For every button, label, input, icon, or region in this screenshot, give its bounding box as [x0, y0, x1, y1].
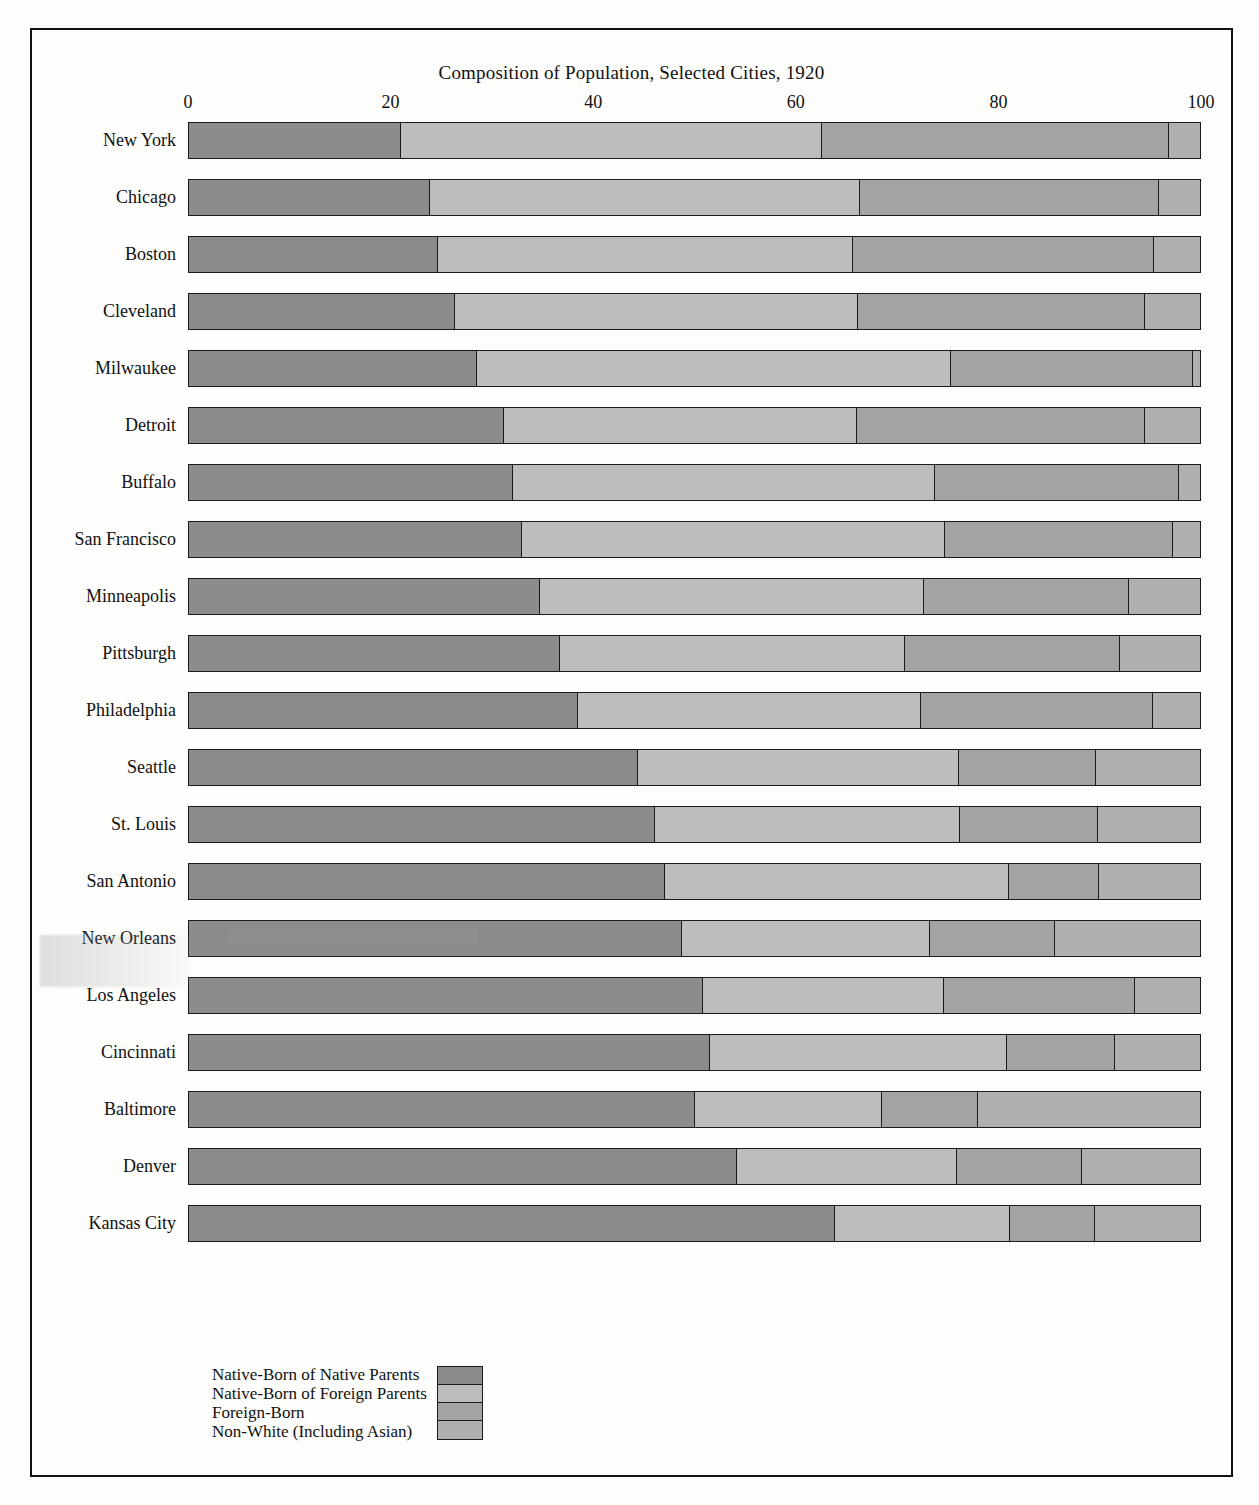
bar-row: San Antonio	[188, 859, 1201, 903]
bar-segment	[703, 978, 945, 1013]
x-axis-tick: 80	[989, 92, 1007, 113]
chart-legend: Native-Born of Native ParentsNative-Born…	[212, 1365, 483, 1441]
bar-segment	[1082, 1149, 1200, 1184]
bar-row-label: Cincinnati	[101, 1042, 176, 1063]
stacked-bar	[188, 236, 1201, 273]
bar-segment	[189, 807, 655, 842]
bar-row-label: San Francisco	[75, 529, 176, 550]
bar-segment	[1159, 180, 1200, 215]
bar-segment	[504, 408, 857, 443]
bar-segment	[1153, 693, 1200, 728]
bar-segment	[1120, 636, 1200, 671]
x-axis-tick: 100	[1188, 92, 1215, 113]
bar-segment	[944, 978, 1135, 1013]
chart-title: Composition of Population, Selected Citi…	[32, 62, 1231, 84]
bar-row: Chicago	[188, 175, 1201, 219]
legend-label: Non-White (Including Asian)	[212, 1422, 427, 1441]
bar-segment	[853, 237, 1154, 272]
bar-row-label: New York	[103, 130, 176, 151]
legend-swatch	[438, 1385, 482, 1403]
legend-label-list: Native-Born of Native ParentsNative-Born…	[212, 1365, 427, 1441]
bar-row: Buffalo	[188, 460, 1201, 504]
bar-row: Cleveland	[188, 289, 1201, 333]
bar-segment	[930, 921, 1055, 956]
bar-segment	[1010, 1206, 1095, 1241]
x-axis-tick: 20	[382, 92, 400, 113]
stacked-bar	[188, 977, 1201, 1014]
bar-segment	[638, 750, 959, 785]
bar-segment	[189, 237, 438, 272]
bar-segment	[189, 1149, 737, 1184]
bar-row-label: Seattle	[127, 757, 176, 778]
stacked-bar	[188, 749, 1201, 786]
bar-segment	[1129, 579, 1200, 614]
bar-segment	[189, 180, 430, 215]
stacked-bar	[188, 179, 1201, 216]
bar-segment	[959, 750, 1095, 785]
bar-segment	[1055, 921, 1200, 956]
bar-row: Boston	[188, 232, 1201, 276]
bar-segment	[1096, 750, 1200, 785]
bar-segment	[189, 978, 703, 1013]
stacked-bar	[188, 407, 1201, 444]
bar-segment	[189, 864, 665, 899]
stacked-bar	[188, 521, 1201, 558]
bar-row: Pittsburgh	[188, 631, 1201, 675]
bar-segment	[455, 294, 858, 329]
legend-swatch-list	[437, 1366, 483, 1440]
stacked-bar	[188, 1091, 1201, 1128]
bar-segment	[1193, 351, 1200, 386]
bar-segment	[522, 522, 946, 557]
chart-frame: Composition of Population, Selected Citi…	[30, 28, 1233, 1477]
plot-area: 020406080100 New YorkChicagoBostonClevel…	[188, 92, 1201, 1445]
bar-row: New Orleans	[188, 916, 1201, 960]
legend-label: Foreign-Born	[212, 1403, 427, 1422]
bar-segment	[835, 1206, 1010, 1241]
bar-segment	[1154, 237, 1199, 272]
bar-segment	[822, 123, 1169, 158]
bar-segment	[189, 636, 560, 671]
stacked-bar	[188, 1148, 1201, 1185]
bar-segment	[189, 351, 477, 386]
bar-row-label: Detroit	[125, 415, 176, 436]
bar-row: Cincinnati	[188, 1030, 1201, 1074]
bar-row: New York	[188, 118, 1201, 162]
bar-segment	[857, 408, 1145, 443]
legend-swatch	[438, 1421, 482, 1439]
bar-segment	[189, 123, 401, 158]
bar-segment	[924, 579, 1129, 614]
bar-segment	[710, 1035, 1007, 1070]
stacked-bar	[188, 635, 1201, 672]
bar-rows: New YorkChicagoBostonClevelandMilwaukeeD…	[188, 118, 1201, 1245]
bar-row-label: Philadelphia	[86, 700, 176, 721]
stacked-bar	[188, 464, 1201, 501]
bar-segment	[960, 807, 1097, 842]
bar-segment	[1095, 1206, 1200, 1241]
stacked-bar	[188, 863, 1201, 900]
bar-row: Denver	[188, 1144, 1201, 1188]
bar-segment	[882, 1092, 978, 1127]
bar-segment	[1098, 807, 1200, 842]
stacked-bar	[188, 578, 1201, 615]
bar-segment	[189, 522, 522, 557]
bar-segment	[560, 636, 905, 671]
bar-segment	[1135, 978, 1200, 1013]
bar-segment	[430, 180, 861, 215]
bar-segment	[737, 1149, 957, 1184]
bar-row-label: Baltimore	[104, 1099, 176, 1120]
bar-segment	[665, 864, 1009, 899]
bar-row: Baltimore	[188, 1087, 1201, 1131]
bar-row-label: Boston	[125, 244, 176, 265]
stacked-bar	[188, 692, 1201, 729]
bar-segment	[189, 408, 504, 443]
bar-row-label: Chicago	[116, 187, 176, 208]
bar-row-label: Milwaukee	[95, 358, 176, 379]
legend-swatch	[438, 1403, 482, 1421]
bar-segment	[1145, 408, 1200, 443]
bar-row: St. Louis	[188, 802, 1201, 846]
bar-row: Kansas City	[188, 1201, 1201, 1245]
bar-segment	[189, 579, 540, 614]
bar-row: Philadelphia	[188, 688, 1201, 732]
bar-segment	[189, 465, 513, 500]
bar-segment	[858, 294, 1145, 329]
